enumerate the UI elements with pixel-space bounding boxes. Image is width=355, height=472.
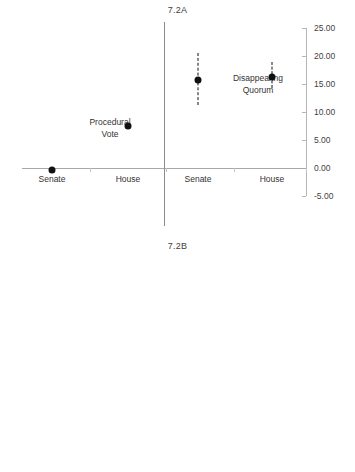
y-tick-mark [302, 84, 306, 85]
y-tick-mark [302, 112, 306, 113]
y-tick-label: 0.00 [314, 163, 331, 173]
y-tick-mark [302, 56, 306, 57]
data-point-marker [195, 76, 202, 83]
group-label-line: Disappearing [233, 72, 283, 84]
x-tick-mark [306, 168, 307, 172]
x-tick-mark [234, 168, 235, 172]
y-tick-mark [302, 196, 306, 197]
y-tick-label: 10.00 [314, 107, 335, 117]
chart-panel-7-2b: 7.2B 0.200.150.100.050.00-0.05-0.10 Sena… [0, 236, 355, 472]
panel-title-a: 7.2A [0, 5, 355, 15]
y-tick-label: -5.00 [314, 191, 333, 201]
y-tick-label: 15.00 [314, 79, 335, 89]
group-label-line: Quorum [233, 84, 283, 96]
x-category-label-senate-0: Senate [39, 174, 66, 184]
x-tick-mark [166, 168, 167, 172]
x-category-label-house-3: House [260, 174, 285, 184]
group-divider-line [164, 22, 165, 226]
group-annotation-2: DisappearingQuorum [233, 72, 283, 96]
y-tick-label: 25.00 [314, 23, 335, 33]
y-tick-mark [302, 28, 306, 29]
data-point-marker [269, 74, 276, 81]
data-point-marker [49, 167, 56, 174]
y-tick-mark [302, 140, 306, 141]
chart-panel-7-2a: 7.2A 25.0020.0015.0010.005.000.00-5.00 S… [0, 0, 355, 236]
panel-title-b: 7.2B [0, 241, 355, 251]
group-label-line: Vote [89, 128, 130, 140]
y-tick-label: 5.00 [314, 135, 331, 145]
data-point-marker [125, 123, 132, 130]
plot-area-a: 25.0020.0015.0010.005.000.00-5.00 [22, 28, 306, 196]
x-category-label-house-1: House [116, 174, 141, 184]
x-category-label-senate-2: Senate [185, 174, 212, 184]
x-tick-mark [90, 168, 91, 172]
y-tick-label: 20.00 [314, 51, 335, 61]
